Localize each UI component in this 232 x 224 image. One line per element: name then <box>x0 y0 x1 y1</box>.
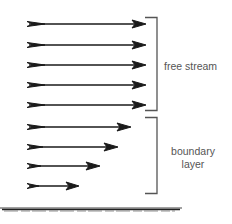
arrow-icon <box>27 123 131 131</box>
arrow-icon <box>27 182 79 190</box>
free-stream-label: free stream <box>164 60 217 73</box>
boundary-layer-arrows <box>27 123 131 190</box>
boundary-layer-label-line1: boundary <box>163 145 223 158</box>
surface-wall <box>0 208 182 211</box>
arrow-icon <box>27 20 146 28</box>
boundary-layer-bracket <box>145 118 157 194</box>
boundary-layer-diagram: free stream boundary layer <box>0 0 232 224</box>
arrow-icon <box>27 101 146 109</box>
diagram-canvas <box>0 0 232 224</box>
free-stream-bracket <box>145 18 157 111</box>
arrow-icon <box>27 41 146 49</box>
boundary-layer-label-line2: layer <box>163 158 223 171</box>
arrow-icon <box>27 81 146 89</box>
arrow-icon <box>27 143 118 151</box>
free-stream-arrows <box>27 20 146 109</box>
free-stream-label-text: free stream <box>164 60 217 72</box>
arrow-icon <box>27 162 100 170</box>
arrow-icon <box>27 61 146 69</box>
boundary-layer-label: boundary layer <box>163 145 223 171</box>
